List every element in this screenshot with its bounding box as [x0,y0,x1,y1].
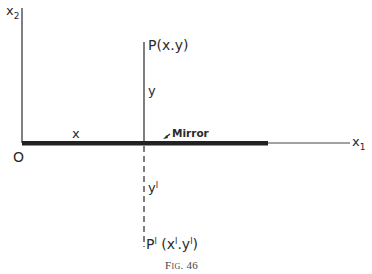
x1-label-subscript: 1 [360,142,366,152]
mirror-reflection-figure: x2 x1 O x Mirror P(x.y) y yI PI (xI.yI) … [0,0,372,274]
y-prime-letter: y [148,180,156,195]
x1-label-letter: x [352,134,360,149]
x2-label-subscript: 2 [14,11,20,21]
origin-label: O [13,150,24,164]
mirror-bar [22,141,268,146]
y-height-label: y [148,84,156,97]
point-p-image-label: PI (xI.yI) [146,237,198,251]
y-prime-mark: I [156,181,158,190]
p-image-coords-y: .y [177,236,190,252]
x2-label-letter: x [6,3,14,18]
x1-axis-label: x1 [352,135,365,148]
p-image-coords-x: (x [161,236,175,252]
x2-axis-label: x2 [6,4,19,17]
p-image-coords-close: ) [192,236,197,252]
point-p-label: P(x.y) [148,38,188,52]
mirror-label: Mirror [172,128,209,139]
y-prime-depth-label: yI [148,181,158,194]
figure-caption: Fig. 46 [165,259,198,271]
p-image-prime: I [154,237,156,246]
x-distance-label: x [72,127,80,140]
